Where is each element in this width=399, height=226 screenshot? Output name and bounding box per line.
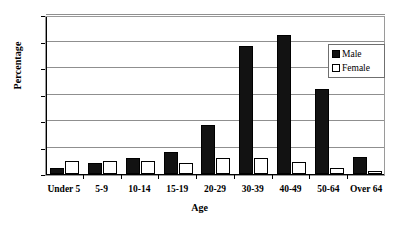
bar-chart: Percentage 051015202530 Under 55-910-141…: [0, 0, 399, 226]
bar-male: [239, 46, 253, 174]
bar-male: [50, 168, 64, 174]
bar-group: [235, 15, 273, 174]
legend-label-female: Female: [342, 61, 370, 75]
y-tick-mark: [41, 122, 45, 123]
x-tick-mark: [196, 175, 197, 179]
x-tick-mark: [234, 175, 235, 179]
x-tick-label: 5-9: [95, 184, 108, 194]
bar-male: [88, 163, 102, 174]
bar-group: [310, 15, 348, 174]
legend-item-female: Female: [332, 61, 384, 75]
bar-male: [201, 125, 215, 174]
y-tick-mark: [41, 175, 45, 176]
bar-group: [84, 15, 122, 174]
bar-male: [353, 157, 367, 174]
bar-female: [141, 161, 155, 174]
x-axis-title: Age: [0, 202, 399, 213]
x-tick-mark: [83, 175, 84, 179]
x-tick-mark: [272, 175, 273, 179]
chart-legend: Male Female: [328, 44, 385, 78]
bar-male: [277, 35, 291, 174]
bar-male: [126, 158, 140, 174]
x-tick-label: 40-49: [279, 184, 301, 194]
legend-item-male: Male: [332, 47, 384, 61]
legend-label-male: Male: [342, 47, 362, 61]
bar-female: [368, 171, 382, 174]
y-tick-mark: [41, 149, 45, 150]
y-tick-mark: [41, 43, 45, 44]
x-tick-label: 15-19: [166, 184, 188, 194]
bar-female: [292, 162, 306, 174]
bar-female: [179, 163, 193, 174]
y-tick-mark: [41, 96, 45, 97]
bar-female: [103, 161, 117, 174]
bar-group: [273, 15, 311, 174]
x-tick-mark: [309, 175, 310, 179]
bar-male: [315, 89, 329, 174]
bar-female: [254, 158, 268, 174]
bar-group: [197, 15, 235, 174]
bar-female: [330, 168, 344, 174]
bar-group: [46, 15, 84, 174]
x-tick-mark: [158, 175, 159, 179]
x-tick-label: 10-14: [128, 184, 150, 194]
x-tick-label: 50-64: [317, 184, 339, 194]
bar-female: [216, 158, 230, 174]
plot-area: [45, 16, 385, 176]
y-axis-title: Percentage: [12, 11, 23, 121]
x-tick-label: Over 64: [350, 184, 382, 194]
bar-group: [122, 15, 160, 174]
bars-layer: [46, 16, 385, 175]
x-tick-mark: [347, 175, 348, 179]
bar-group: [348, 15, 386, 174]
legend-swatch-female-icon: [332, 64, 340, 72]
bar-female: [65, 161, 79, 174]
bar-group: [159, 15, 197, 174]
legend-swatch-male-icon: [332, 50, 340, 58]
y-tick-mark: [41, 69, 45, 70]
y-tick-mark: [41, 16, 45, 17]
x-tick-label: Under 5: [47, 184, 80, 194]
bar-male: [164, 152, 178, 174]
x-tick-mark: [121, 175, 122, 179]
x-tick-label: 20-29: [204, 184, 226, 194]
x-tick-label: 30-39: [242, 184, 264, 194]
